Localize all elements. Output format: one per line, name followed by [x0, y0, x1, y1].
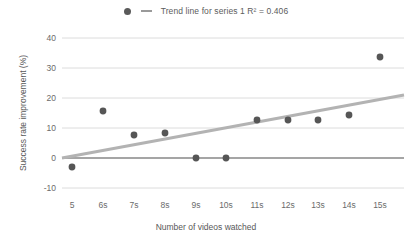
data-point: [346, 112, 353, 119]
trend-line: [62, 95, 404, 158]
data-points: [69, 54, 384, 171]
x-tick-label: 13s: [305, 200, 331, 210]
x-tick-label: 9s: [183, 200, 209, 210]
x-tick-label: 8s: [152, 200, 178, 210]
x-tick-label: 15s: [367, 200, 393, 210]
x-axis-title: Number of videos watched: [0, 222, 412, 232]
y-tick-label: 0: [30, 153, 56, 163]
data-point: [100, 108, 107, 115]
x-tick-label: 7s: [121, 200, 147, 210]
plot-area: 40 30 20 10 0 -10 5 6s 7s 8s 9s 10s 11s …: [0, 0, 412, 242]
data-point: [254, 117, 261, 124]
data-point: [162, 130, 169, 137]
x-tick-label: 14s: [336, 200, 362, 210]
y-tick-label: 20: [30, 93, 56, 103]
data-point: [131, 132, 138, 139]
data-point: [223, 155, 230, 162]
y-tick-label: -10: [30, 183, 56, 193]
data-point: [315, 117, 322, 124]
x-tick-label: 5: [59, 200, 85, 210]
data-point: [377, 54, 384, 61]
gridlines: [62, 38, 404, 188]
data-point: [69, 164, 76, 171]
x-tick-label: 10s: [213, 200, 239, 210]
x-tick-label: 12s: [275, 200, 301, 210]
data-point: [193, 155, 200, 162]
scatter-chart: Trend line for series 1 R² = 0.406: [0, 0, 412, 242]
y-axis-title: Success rate improvement (%): [18, 43, 28, 183]
y-tick-label: 40: [30, 33, 56, 43]
y-tick-label: 10: [30, 123, 56, 133]
data-point: [285, 117, 292, 124]
y-tick-label: 30: [30, 63, 56, 73]
x-tick-label: 6s: [90, 200, 116, 210]
x-tick-label: 11s: [244, 200, 270, 210]
